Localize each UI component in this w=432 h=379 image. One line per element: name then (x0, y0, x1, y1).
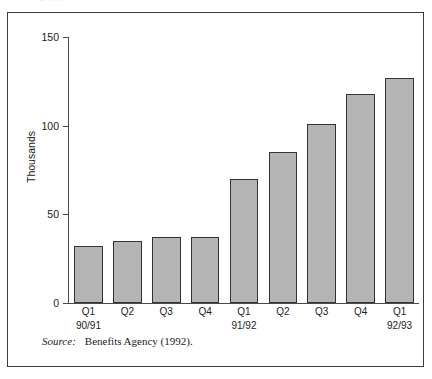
y-axis-tick-label: 150 (19, 32, 59, 43)
x-axis-tick-label: Q2 (108, 306, 147, 318)
bar (307, 124, 336, 303)
bar (269, 152, 298, 303)
source-label: Source: (42, 335, 76, 347)
clipped-top-text: f. . .. . (40, 0, 65, 3)
x-axis-group-label: 91/92 (225, 320, 264, 331)
bar (385, 78, 414, 303)
x-axis-tick-label: Q3 (302, 306, 341, 318)
bar-chart-plot: 050100150 Thousands Q1Q2Q3Q4Q1Q2Q3Q4Q190… (8, 13, 425, 368)
bar (74, 246, 103, 303)
x-axis-tick-label: Q4 (186, 306, 225, 318)
source-note: Source:Benefits Agency (1992). (42, 335, 193, 347)
y-axis-tick-label: 0 (19, 298, 59, 309)
y-axis-tick (63, 303, 69, 304)
bar (191, 237, 220, 304)
clipped-top-text-strip: f. . .. . (0, 0, 432, 11)
bar (230, 179, 259, 303)
figure-frame: 050100150 Thousands Q1Q2Q3Q4Q1Q2Q3Q4Q190… (7, 12, 424, 367)
x-axis-tick-label: Q4 (341, 306, 380, 318)
y-axis-tick-label: 50 (19, 209, 59, 220)
x-axis-tick-label: Q1 (69, 306, 108, 318)
y-axis-label: Thousands (25, 112, 37, 202)
x-axis-tick-label: Q1 (380, 306, 419, 318)
bar (152, 237, 181, 304)
source-text: Benefits Agency (1992). (85, 335, 193, 347)
bar-series (69, 37, 419, 303)
bar (346, 94, 375, 303)
bar (113, 241, 142, 303)
x-axis-tick-label: Q3 (147, 306, 186, 318)
x-axis-group-label: 90/91 (69, 320, 108, 331)
x-axis-tick-label: Q2 (263, 306, 302, 318)
x-axis-group-label: 92/93 (380, 320, 419, 331)
x-axis-line (68, 303, 419, 304)
x-axis-tick-label: Q1 (225, 306, 264, 318)
